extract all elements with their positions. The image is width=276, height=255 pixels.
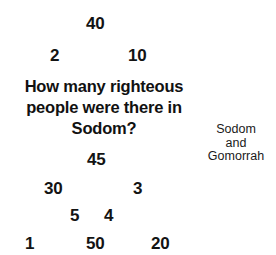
- question-line-3: Sodom?: [6, 118, 202, 139]
- caption-line-3: Gomorrah: [196, 150, 276, 164]
- answer-option[interactable]: 3: [133, 180, 142, 197]
- caption-line-2: and: [196, 137, 276, 151]
- question-line-2: people were there in: [6, 97, 202, 118]
- question-line-1: How many righteous: [6, 76, 202, 97]
- answer-option[interactable]: 10: [128, 47, 147, 64]
- answer-option[interactable]: 5: [70, 207, 79, 224]
- answer-option[interactable]: 1: [25, 235, 34, 252]
- answer-option[interactable]: 4: [104, 207, 113, 224]
- caption-text: Sodom and Gomorrah: [196, 123, 276, 164]
- quiz-image-canvas: 40210453035415020 How many righteous peo…: [0, 0, 276, 255]
- answer-option[interactable]: 2: [50, 47, 59, 64]
- caption-line-1: Sodom: [196, 123, 276, 137]
- answer-option[interactable]: 45: [87, 151, 106, 168]
- answer-option[interactable]: 20: [151, 235, 170, 252]
- answer-option[interactable]: 50: [86, 235, 105, 252]
- answer-option[interactable]: 30: [44, 180, 63, 197]
- question-text: How many righteous people were there in …: [6, 76, 202, 139]
- answer-option[interactable]: 40: [86, 15, 105, 32]
